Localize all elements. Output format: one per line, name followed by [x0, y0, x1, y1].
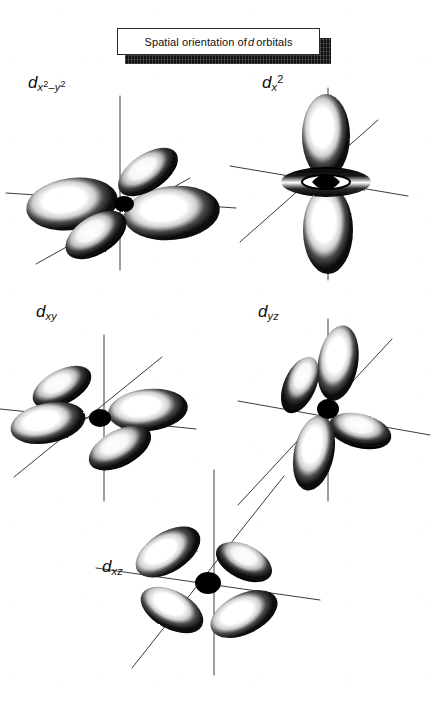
label-sup: 2 [277, 73, 283, 85]
caption-banner: Spatial orientation ofdorbitals [117, 28, 331, 64]
orbital-diagram-dxz [92, 470, 332, 685]
caption-banner-box: Spatial orientation ofdorbitals [117, 28, 320, 55]
orbital-panel-dx2: dx2 [230, 78, 444, 288]
lobes-dxy [7, 357, 190, 480]
label-sub: yz [267, 310, 278, 322]
orbital-label-dxy: dxy [36, 303, 57, 322]
caption-italic-d: d [247, 36, 256, 48]
label-sub: xy [45, 310, 56, 322]
nucleus [317, 399, 339, 419]
orbital-panel-dxz: dxz [92, 470, 332, 685]
orbital-panel-dx2-y2: dx2–y2 [0, 78, 240, 278]
orbital-diagram-dx2 [230, 78, 444, 288]
orbital-diagram-dx2-y2 [0, 78, 240, 278]
orbital-label-dyz: dyz [258, 303, 279, 322]
caption-banner-text: Spatial orientation ofdorbitals [145, 36, 293, 48]
lobe-top [312, 322, 365, 404]
lobes-dxz [127, 516, 285, 648]
lobe-left [7, 396, 90, 451]
lobe-bottom [303, 186, 353, 274]
lobe-top [302, 94, 350, 178]
nucleus [195, 572, 221, 594]
nucleus [89, 409, 111, 427]
lobes-dx2-y2 [23, 138, 223, 269]
label-sub-y-exp: 2 [60, 79, 65, 89]
label-sub: x2–y2 [37, 81, 65, 93]
figure-canvas: Spatial orientation ofdorbitals [0, 0, 444, 712]
orbital-label-dx2-y2: dx2–y2 [28, 74, 66, 93]
orbital-label-dx2: dx2 [262, 74, 283, 93]
caption-text-before: Spatial orientation of [145, 36, 248, 48]
lobes-dyz [273, 322, 395, 494]
orbital-label-dxz: dxz [102, 558, 123, 577]
caption-text-after: orbitals [256, 36, 292, 48]
nucleus [114, 196, 134, 212]
lobes-dx2 [281, 94, 371, 274]
lobe-upper-left [127, 516, 209, 588]
label-sub: xz [111, 565, 122, 577]
